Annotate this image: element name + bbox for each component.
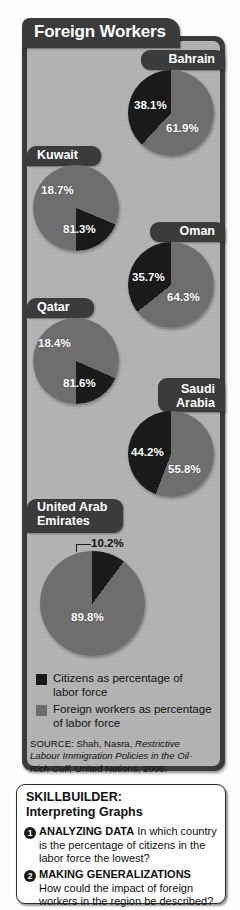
skillbuilder-question-2: 2MAKING GENERALIZATIONS How could the im… <box>24 868 222 909</box>
legend-citizens-line1: Citizens as percentage of <box>53 672 183 684</box>
legend-foreign-line2: of labor force <box>53 717 120 729</box>
legend-foreign-line1: Foreign workers as percentage <box>53 703 212 715</box>
pie-chart-uae <box>40 551 145 656</box>
legend-label-citizens: Citizens as percentage of labor force <box>53 672 183 699</box>
skillbuilder-title: SKILLBUILDER: Interpreting Graphs <box>26 790 143 820</box>
question-1-number-icon: 1 <box>24 827 36 839</box>
pie-value-saudi-citizens: 44.2% <box>131 446 164 458</box>
question-2-heading: MAKING GENERALIZATIONS <box>39 868 191 880</box>
country-label-qatar: Qatar <box>27 298 94 318</box>
pie-value-oman-citizens: 35.7% <box>132 271 165 283</box>
foreign-workers-infographic: Foreign Workers Bahrain 38.1% 61.9% Kuwa… <box>0 0 240 910</box>
source-suffix: United Nations, 2006. <box>72 763 167 774</box>
pie-value-bahrain-foreign: 61.9% <box>166 122 199 134</box>
legend-swatch-citizens-icon <box>36 674 47 685</box>
country-label-kuwait: Kuwait <box>27 146 101 166</box>
country-label-bahrain-text: Bahrain <box>168 53 215 67</box>
country-label-qatar-text: Qatar <box>37 301 70 315</box>
pie-value-qatar-citizens: 18.4% <box>38 337 71 349</box>
country-label-oman: Oman <box>150 222 225 242</box>
question-2-number-icon: 2 <box>24 870 36 882</box>
question-1-body: is the percentage of citizens in the lab… <box>39 839 222 866</box>
country-label-saudi-line2: Arabia <box>176 397 215 411</box>
question-2-body: How could the impact of foreign workers … <box>39 882 222 909</box>
pie-value-oman-foreign: 64.3% <box>167 291 200 303</box>
country-label-saudi-line1: Saudi <box>181 383 215 397</box>
pie-value-uae-foreign: 89.8% <box>71 611 104 623</box>
pie-chart-bahrain <box>128 70 214 156</box>
pie-chart-qatar <box>33 318 119 404</box>
question-1-heading: ANALYZING DATA <box>39 825 134 837</box>
infographic-title-tab: Foreign Workers <box>22 18 180 48</box>
pie-value-bahrain-citizens: 38.1% <box>134 99 167 111</box>
page-title: Foreign Workers <box>34 22 166 42</box>
legend-citizens-line2: labor force <box>53 686 107 698</box>
pie-value-kuwait-citizens: 18.7% <box>41 184 74 196</box>
pie-value-kuwait-foreign: 81.3% <box>63 223 96 235</box>
skillbuilder-question-1: 1ANALYZING DATA In which country is the … <box>24 825 222 866</box>
country-label-bahrain: Bahrain <box>141 50 225 70</box>
country-label-uae: United Arab Emirates <box>27 499 123 533</box>
skillbuilder-title-line1: SKILLBUILDER: <box>26 790 122 804</box>
pie-value-saudi-foreign: 55.8% <box>168 463 201 475</box>
country-label-saudi-arabia: Saudi Arabia <box>158 378 225 412</box>
country-label-uae-line1: United Arab <box>37 501 107 515</box>
country-label-oman-text: Oman <box>180 225 215 239</box>
legend-item-foreign: Foreign workers as percentage of labor f… <box>36 703 216 730</box>
legend-label-foreign: Foreign workers as percentage of labor f… <box>53 703 212 730</box>
pie-value-qatar-foreign: 81.6% <box>63 377 96 389</box>
pie-value-uae-citizens: 10.2% <box>91 537 124 549</box>
country-label-uae-line2: Emirates <box>37 515 90 529</box>
skillbuilder-title-line2: Interpreting Graphs <box>26 805 143 819</box>
country-label-kuwait-text: Kuwait <box>37 149 78 163</box>
pie-chart-oman <box>128 242 214 328</box>
legend-swatch-foreign-icon <box>36 705 47 716</box>
question-1-lead: In which country <box>134 825 217 837</box>
skillbuilder-box: SKILLBUILDER: Interpreting Graphs 1ANALY… <box>16 784 226 904</box>
source-citation: SOURCE: Shah, Nasra, Restrictive Labour … <box>30 738 210 775</box>
pie-chart-kuwait <box>33 165 119 251</box>
source-prefix: SOURCE: Shah, Nasra, <box>30 738 135 749</box>
legend-item-citizens: Citizens as percentage of labor force <box>36 672 216 699</box>
legend: Citizens as percentage of labor force Fo… <box>36 672 216 734</box>
